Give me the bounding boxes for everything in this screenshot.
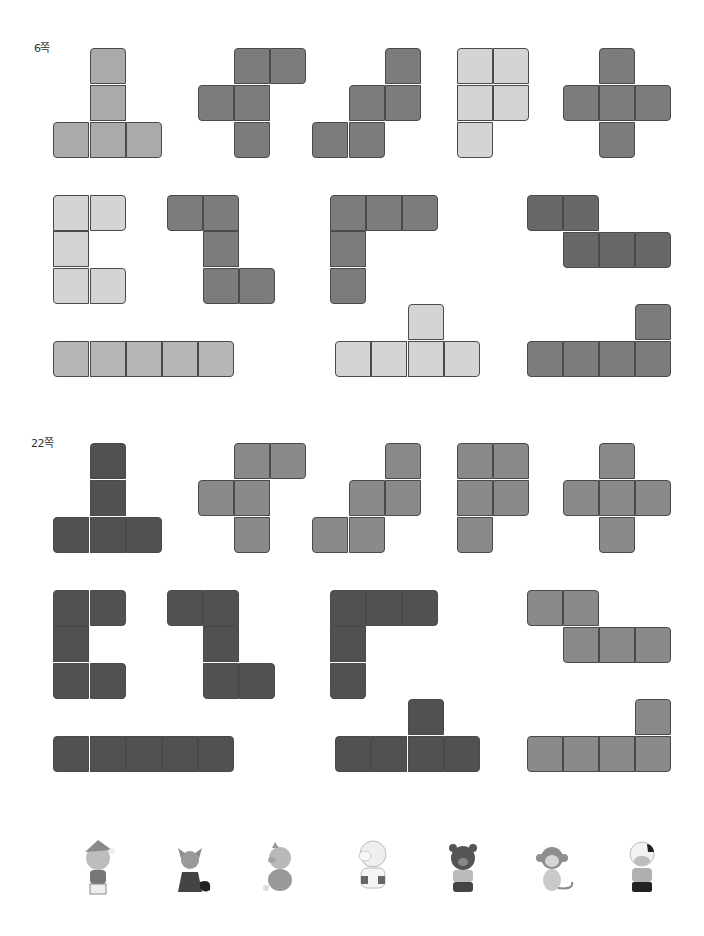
page-label-22: 22쪽 <box>31 434 54 450</box>
piece-cell <box>371 736 407 772</box>
piece-cell <box>53 736 89 772</box>
piece-cell <box>198 341 234 377</box>
piece-cell <box>90 480 126 516</box>
piece-cell <box>90 736 126 772</box>
page-label-6: 6쪽 <box>34 39 50 55</box>
piece-cell <box>330 268 366 304</box>
fox-illustration <box>160 838 220 908</box>
piece-cell <box>53 122 89 158</box>
piece-cell <box>53 195 89 231</box>
piece-cell <box>402 590 438 626</box>
piece-cell <box>599 232 635 268</box>
piece-cell <box>493 443 529 479</box>
piece-cell <box>385 85 421 121</box>
piece-cell <box>90 48 126 84</box>
piece-cell <box>330 626 366 662</box>
piece-cell <box>126 341 162 377</box>
piece-cell <box>563 232 599 268</box>
piece-cell <box>599 736 635 772</box>
piece-cell <box>563 736 599 772</box>
piece-cell <box>457 85 493 121</box>
piece-cell <box>457 443 493 479</box>
piece-cell <box>239 268 275 304</box>
piece-cell <box>167 195 203 231</box>
piece-cell <box>90 85 126 121</box>
piece-cell <box>203 590 239 626</box>
piece-cell <box>563 627 599 663</box>
piece-cell <box>53 663 89 699</box>
piece-cell <box>599 480 635 516</box>
cat-illustration <box>68 838 128 908</box>
piece-cell <box>126 517 162 553</box>
piece-cell <box>635 699 671 735</box>
piece-cell <box>335 736 371 772</box>
piece-cell <box>53 268 89 304</box>
piece-cell <box>366 195 402 231</box>
piece-cell <box>349 122 385 158</box>
piece-cell <box>527 590 563 626</box>
piece-cell <box>234 48 270 84</box>
piece-cell <box>162 736 198 772</box>
piece-cell <box>53 590 89 626</box>
piece-cell <box>599 443 635 479</box>
cow-illustration <box>612 836 672 906</box>
piece-cell <box>53 341 89 377</box>
piece-cell <box>335 341 371 377</box>
piece-cell <box>371 341 407 377</box>
piece-cell <box>635 736 671 772</box>
piece-cell <box>53 517 89 553</box>
piece-cell <box>330 195 366 231</box>
piece-cell <box>408 304 444 340</box>
piece-cell <box>493 48 529 84</box>
piece-cell <box>330 663 366 699</box>
piece-cell <box>90 663 126 699</box>
piece-cell <box>563 341 599 377</box>
piece-cell <box>563 195 599 231</box>
piece-cell <box>349 480 385 516</box>
pig-illustration <box>250 838 310 908</box>
piece-cell <box>444 341 480 377</box>
piece-cell <box>457 480 493 516</box>
piece-cell <box>167 590 203 626</box>
piece-cell <box>635 304 671 340</box>
piece-cell <box>366 590 402 626</box>
piece-cell <box>599 48 635 84</box>
piece-cell <box>349 517 385 553</box>
piece-cell <box>162 341 198 377</box>
piece-cell <box>599 341 635 377</box>
piece-cell <box>239 663 275 699</box>
piece-cell <box>312 122 348 158</box>
piece-cell <box>90 443 126 479</box>
piece-cell <box>90 590 126 626</box>
piece-cell <box>126 122 162 158</box>
piece-cell <box>270 443 306 479</box>
piece-cell <box>330 590 366 626</box>
piece-cell <box>408 341 444 377</box>
piece-cell <box>527 195 563 231</box>
piece-cell <box>270 48 306 84</box>
piece-cell <box>493 480 529 516</box>
piece-cell <box>444 736 480 772</box>
piece-cell <box>90 195 126 231</box>
monkey-illustration <box>522 838 582 908</box>
piece-cell <box>635 232 671 268</box>
piece-cell <box>234 480 270 516</box>
piece-cell <box>198 736 234 772</box>
piece-cell <box>599 85 635 121</box>
piece-cell <box>203 626 239 662</box>
piece-cell <box>90 122 126 158</box>
sheep-illustration <box>343 836 403 906</box>
piece-cell <box>90 341 126 377</box>
piece-cell <box>234 122 270 158</box>
piece-cell <box>198 480 234 516</box>
piece-cell <box>635 341 671 377</box>
piece-cell <box>563 85 599 121</box>
piece-cell <box>126 736 162 772</box>
piece-cell <box>527 736 563 772</box>
piece-cell <box>599 517 635 553</box>
piece-cell <box>349 85 385 121</box>
piece-cell <box>203 663 239 699</box>
piece-cell <box>457 48 493 84</box>
piece-cell <box>635 480 671 516</box>
piece-cell <box>527 341 563 377</box>
